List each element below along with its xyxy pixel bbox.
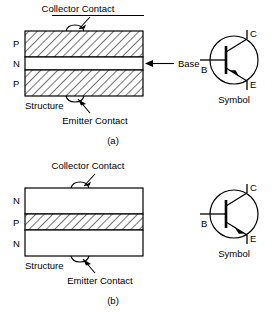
base-callout-label-a: Base <box>178 58 200 69</box>
symbol-terminal-label-c-a: C <box>250 28 257 39</box>
layer-label-collector-a: P <box>13 38 19 49</box>
structure-label-b: Structure <box>25 260 64 271</box>
symbol-terminal-label-b-a: B <box>201 64 207 75</box>
collector-contact-label-b: Collector Contact <box>52 160 125 171</box>
symbol-label-a: Symbol <box>218 94 250 105</box>
figure-a-canvas: Collector Contact P N P Base Structure E… <box>0 0 276 156</box>
figure-panel-a: Collector Contact P N P Base Structure E… <box>0 0 276 156</box>
symbol-collector-diagonal-a <box>226 39 247 52</box>
symbol-collector-diagonal-b <box>226 193 247 206</box>
panel-caption-a: (a) <box>107 135 119 146</box>
layer-emitter-p-a <box>25 70 143 96</box>
symbol-terminal-label-b-b: B <box>201 218 207 229</box>
layer-label-emitter-a: P <box>13 78 19 89</box>
symbol-terminal-label-e-a: E <box>250 79 256 90</box>
figure-panel-b: Collector Contact N P N Structure Emitte… <box>0 156 276 312</box>
layer-label-base-b: P <box>13 217 19 228</box>
symbol-label-b: Symbol <box>218 248 250 259</box>
layer-collector-p-a <box>25 31 143 57</box>
layer-collector-n-b <box>25 188 143 214</box>
layer-base-n-a <box>25 57 143 70</box>
emitter-contact-label-a: Emitter Contact <box>62 115 128 126</box>
layer-base-p-b <box>25 214 143 230</box>
figure-b-canvas: Collector Contact N P N Structure Emitte… <box>0 156 276 312</box>
layer-label-emitter-b: N <box>13 238 20 249</box>
layer-emitter-n-b <box>25 230 143 256</box>
layer-label-base-a: N <box>13 58 20 69</box>
base-callout-arrowhead-a <box>145 60 153 67</box>
panel-caption-b: (b) <box>107 295 119 306</box>
symbol-terminal-label-c-b: C <box>250 182 257 193</box>
symbol-terminal-label-e-b: E <box>250 233 256 244</box>
emitter-contact-label-b: Emitter Contact <box>67 275 133 286</box>
collector-contact-label-a: Collector Contact <box>42 3 115 14</box>
structure-label-a: Structure <box>25 100 64 111</box>
layer-label-collector-b: N <box>13 195 20 206</box>
symbol-emitter-arrow-b <box>235 228 245 234</box>
